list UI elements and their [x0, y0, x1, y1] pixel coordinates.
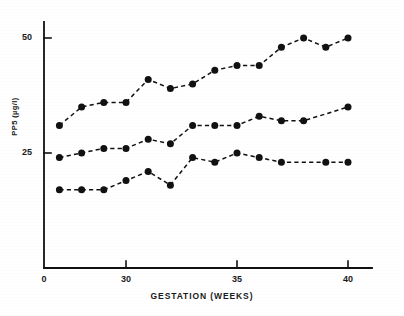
y-axis-title: PP5 (µg/l)	[10, 77, 19, 157]
data-point-marker	[300, 35, 307, 42]
data-series-layer	[56, 35, 352, 194]
data-point-marker	[211, 67, 218, 74]
x-tick-label-30: 30	[114, 274, 138, 284]
data-point-marker	[234, 150, 241, 157]
data-point-marker	[167, 140, 174, 147]
data-point-marker	[256, 113, 263, 120]
data-point-marker	[345, 104, 352, 111]
data-point-marker	[56, 186, 63, 193]
data-point-marker	[189, 81, 196, 88]
data-point-marker	[78, 104, 85, 111]
x-tick-label-35: 35	[225, 274, 249, 284]
data-point-marker	[100, 186, 107, 193]
data-point-marker	[211, 122, 218, 129]
data-point-marker	[234, 62, 241, 69]
data-point-marker	[100, 145, 107, 152]
data-point-marker	[278, 159, 285, 166]
scatter-line-plot	[0, 0, 404, 316]
data-point-marker	[211, 159, 218, 166]
data-point-marker	[145, 136, 152, 143]
data-point-marker	[300, 117, 307, 124]
data-point-marker	[56, 122, 63, 129]
data-point-marker	[322, 159, 329, 166]
data-point-marker	[345, 159, 352, 166]
axis-lines	[44, 22, 372, 268]
series-dashed-line	[59, 38, 348, 125]
x-tick-label-40: 40	[336, 274, 360, 284]
x-tick-label-0: 0	[32, 274, 56, 284]
data-point-marker	[123, 99, 130, 106]
data-series	[56, 35, 352, 129]
data-point-marker	[56, 154, 63, 161]
y-tick-label-50: 50	[2, 32, 32, 42]
series-dashed-line	[59, 153, 348, 190]
data-point-marker	[189, 122, 196, 129]
x-axis-title: GESTATION (WEEKS)	[0, 291, 404, 301]
data-point-marker	[234, 122, 241, 129]
data-point-marker	[145, 76, 152, 83]
data-point-marker	[78, 186, 85, 193]
data-point-marker	[345, 35, 352, 42]
data-point-marker	[167, 182, 174, 189]
data-point-marker	[100, 99, 107, 106]
data-point-marker	[78, 150, 85, 157]
data-point-marker	[278, 117, 285, 124]
data-point-marker	[189, 154, 196, 161]
data-point-marker	[145, 168, 152, 175]
data-point-marker	[322, 44, 329, 51]
data-series	[56, 150, 352, 194]
data-point-marker	[123, 177, 130, 184]
data-series	[56, 104, 352, 162]
data-point-marker	[256, 62, 263, 69]
data-point-marker	[278, 44, 285, 51]
axis-ticks	[44, 38, 348, 268]
data-point-marker	[256, 154, 263, 161]
data-point-marker	[167, 85, 174, 92]
data-point-marker	[123, 145, 130, 152]
chart-figure: 50 25 0 30 35 40 GESTATION (WEEKS) PP5 (…	[0, 0, 404, 316]
